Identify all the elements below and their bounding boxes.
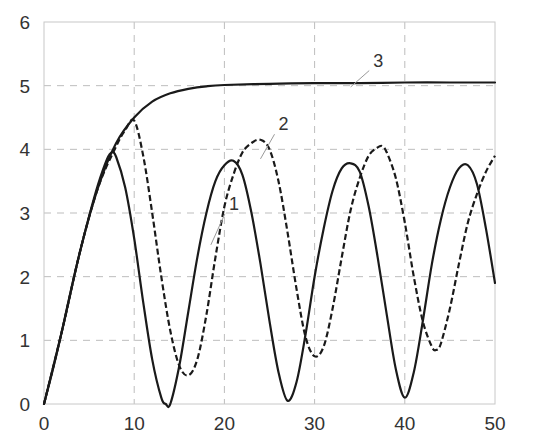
line-chart: 0123456 01020304050 123: [0, 0, 542, 441]
y-tick-label: 0: [19, 394, 30, 415]
curve-labels: 123: [229, 51, 383, 214]
series-2-line: [44, 120, 495, 404]
curve-label-2: 2: [279, 114, 289, 134]
series-group: [44, 82, 495, 407]
y-axis-tick-labels: 0123456: [19, 12, 30, 415]
y-tick-label: 6: [19, 12, 30, 33]
annotation-leaders: [211, 71, 369, 245]
x-tick-label: 30: [304, 413, 325, 434]
series-3-line: [44, 82, 495, 404]
curve-label-3: 3: [373, 51, 383, 71]
x-tick-label: 40: [394, 413, 415, 434]
y-tick-label: 4: [19, 139, 30, 160]
y-tick-label: 3: [19, 203, 30, 224]
x-tick-label: 0: [39, 413, 50, 434]
y-tick-label: 5: [19, 76, 30, 97]
y-tick-label: 2: [19, 267, 30, 288]
x-tick-label: 20: [214, 413, 235, 434]
x-tick-label: 50: [484, 413, 505, 434]
x-tick-label: 10: [124, 413, 145, 434]
curve-label-leader: [351, 71, 370, 87]
grid-lines: [44, 22, 495, 404]
series-1-line: [44, 152, 495, 407]
curve-label-1: 1: [229, 194, 239, 214]
y-tick-label: 1: [19, 330, 30, 351]
x-axis-tick-labels: 01020304050: [39, 413, 506, 434]
